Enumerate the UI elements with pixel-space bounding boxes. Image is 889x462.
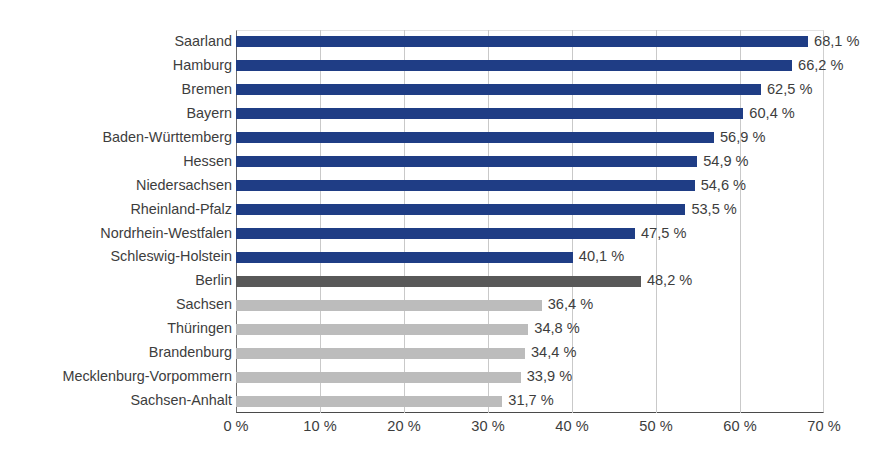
category-label: Hessen — [4, 150, 232, 174]
bar-track — [236, 54, 824, 78]
bar-west — [236, 180, 695, 191]
x-tick-label: 60 % — [705, 418, 775, 434]
bar-row: Thüringen34,8 % — [0, 317, 889, 341]
x-tick-label: 50 % — [621, 418, 691, 434]
bar-row: Mecklenburg-Vorpommern33,9 % — [0, 365, 889, 389]
bar-west — [236, 132, 714, 143]
value-label: 60,4 % — [749, 102, 794, 126]
value-label: 56,9 % — [720, 126, 765, 150]
category-label: Bremen — [4, 78, 232, 102]
bar-row: Bremen62,5 % — [0, 78, 889, 102]
bar-east — [236, 372, 521, 383]
x-tick-label: 0 % — [201, 418, 271, 434]
category-label: Thüringen — [4, 317, 232, 341]
bar-row: Hessen54,9 % — [0, 150, 889, 174]
bar-row: Schleswig-Holstein40,1 % — [0, 245, 889, 269]
category-label: Sachsen — [4, 293, 232, 317]
bar-west — [236, 228, 635, 239]
category-label: Bayern — [4, 102, 232, 126]
value-label: 68,1 % — [814, 30, 859, 54]
bar-track — [236, 269, 824, 293]
bar-east — [236, 396, 502, 407]
bar-track — [236, 78, 824, 102]
bar-west — [236, 60, 792, 71]
category-label: Niedersachsen — [4, 174, 232, 198]
value-label: 34,4 % — [531, 341, 576, 365]
bar-row: Berlin48,2 % — [0, 269, 889, 293]
category-label: Schleswig-Holstein — [4, 245, 232, 269]
category-label: Sachsen-Anhalt — [4, 389, 232, 413]
x-tick-label: 40 % — [537, 418, 607, 434]
bar-west — [236, 84, 761, 95]
value-label: 62,5 % — [767, 78, 812, 102]
bar-track — [236, 102, 824, 126]
bar-west — [236, 156, 697, 167]
value-label: 33,9 % — [527, 365, 572, 389]
value-label: 54,9 % — [703, 150, 748, 174]
value-label: 66,2 % — [798, 54, 843, 78]
x-tick-label: 70 % — [789, 418, 859, 434]
category-label: Brandenburg — [4, 341, 232, 365]
bar-east — [236, 348, 525, 359]
bar-row: Bayern60,4 % — [0, 102, 889, 126]
value-label: 40,1 % — [579, 245, 624, 269]
bar-row: Niedersachsen54,6 % — [0, 174, 889, 198]
bar-east — [236, 300, 542, 311]
category-label: Rheinland-Pfalz — [4, 198, 232, 222]
x-tick-label: 10 % — [285, 418, 355, 434]
value-label: 34,8 % — [534, 317, 579, 341]
bar-track — [236, 30, 824, 54]
x-axis: 0 %10 %20 %30 %40 %50 %60 %70 % — [0, 418, 889, 442]
bar-west — [236, 108, 743, 119]
bar-chart: Saarland68,1 %Hamburg66,2 %Bremen62,5 %B… — [0, 0, 889, 462]
value-label: 53,5 % — [691, 198, 736, 222]
value-label: 48,2 % — [647, 269, 692, 293]
bar-west — [236, 252, 573, 263]
x-tick-label: 30 % — [453, 418, 523, 434]
category-label: Baden-Württemberg — [4, 126, 232, 150]
value-label: 54,6 % — [701, 174, 746, 198]
category-label: Hamburg — [4, 54, 232, 78]
bar-track — [236, 245, 824, 269]
bar-track — [236, 293, 824, 317]
bar-row: Sachsen36,4 % — [0, 293, 889, 317]
bar-track — [236, 222, 824, 246]
category-label: Nordrhein-Westfalen — [4, 222, 232, 246]
value-label: 31,7 % — [508, 389, 553, 413]
bar-row: Baden-Württemberg56,9 % — [0, 126, 889, 150]
bar-row: Rheinland-Pfalz53,5 % — [0, 198, 889, 222]
bar-row: Brandenburg34,4 % — [0, 341, 889, 365]
bar-row: Hamburg66,2 % — [0, 54, 889, 78]
bar-row: Saarland68,1 % — [0, 30, 889, 54]
bar-row: Sachsen-Anhalt31,7 % — [0, 389, 889, 413]
bar-track — [236, 317, 824, 341]
x-tick-label: 20 % — [369, 418, 439, 434]
category-label: Mecklenburg-Vorpommern — [4, 365, 232, 389]
category-label: Saarland — [4, 30, 232, 54]
value-label: 36,4 % — [548, 293, 593, 317]
bar-west — [236, 204, 685, 215]
bar-berlin — [236, 276, 641, 287]
bar-east — [236, 324, 528, 335]
bar-west — [236, 36, 808, 47]
value-label: 47,5 % — [641, 222, 686, 246]
bar-row: Nordrhein-Westfalen47,5 % — [0, 222, 889, 246]
category-label: Berlin — [4, 269, 232, 293]
